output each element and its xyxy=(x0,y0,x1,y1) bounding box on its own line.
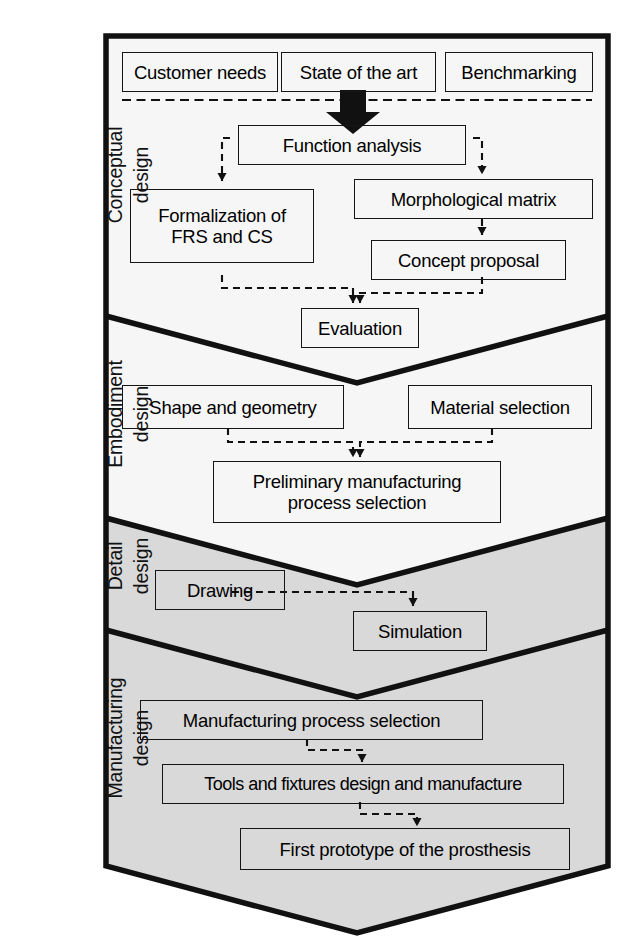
node-drawing[interactable]: Drawing xyxy=(155,570,285,610)
node-customer-needs[interactable]: Customer needs xyxy=(122,52,278,92)
node-manufacturing-process-selection[interactable]: Manufacturing process selection xyxy=(140,700,483,740)
node-tools-and-fixtures[interactable]: Tools and fixtures design and manufactur… xyxy=(162,764,564,804)
node-formalization-frs-cs[interactable]: Formalization of FRS and CS xyxy=(130,189,314,263)
node-shape-and-geometry[interactable]: Shape and geometry xyxy=(122,385,344,429)
node-state-of-the-art[interactable]: State of the art xyxy=(281,52,436,92)
figure-root: Conceptual design Embodiment design Deta… xyxy=(0,0,641,944)
node-simulation[interactable]: Simulation xyxy=(353,611,487,651)
node-material-selection[interactable]: Material selection xyxy=(408,385,592,429)
node-preliminary-manufacturing-process-selection[interactable]: Preliminary manufacturing process select… xyxy=(213,461,501,523)
node-function-analysis[interactable]: Function analysis xyxy=(238,125,466,165)
node-evaluation[interactable]: Evaluation xyxy=(301,308,419,348)
node-first-prototype[interactable]: First prototype of the prosthesis xyxy=(240,828,570,870)
node-concept-proposal[interactable]: Concept proposal xyxy=(371,240,566,280)
node-morphological-matrix[interactable]: Morphological matrix xyxy=(354,179,593,219)
node-benchmarking[interactable]: Benchmarking xyxy=(445,52,593,92)
